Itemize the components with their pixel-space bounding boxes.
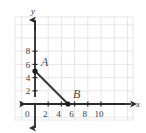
y-axis-label: y [30,6,35,16]
segment-ab [35,71,68,104]
x-tick-label-4: 4 [56,109,61,119]
graph-canvas: A B y x 0 2 4 6 8 10 2 4 6 8 [0,0,146,133]
x-axis-label: x [135,99,140,109]
y-tick-label-4: 4 [26,73,31,83]
x-tick-label-6: 6 [69,109,74,119]
coordinate-plane-figure: A B y x 0 2 4 6 8 10 2 4 6 8 [0,0,146,133]
y-tick-label-2: 2 [26,86,31,96]
point-a-label: A [40,55,49,69]
x-tick-label-8: 8 [83,109,88,119]
point-b-label: B [73,87,81,101]
point-a-marker [32,68,37,73]
origin-label: 0 [25,109,30,119]
x-tick-label-2: 2 [43,109,48,119]
point-b-marker [65,101,70,106]
y-tick-label-8: 8 [26,46,31,56]
x-tick-label-10: 10 [95,109,105,119]
y-tick-label-6: 6 [26,60,31,70]
